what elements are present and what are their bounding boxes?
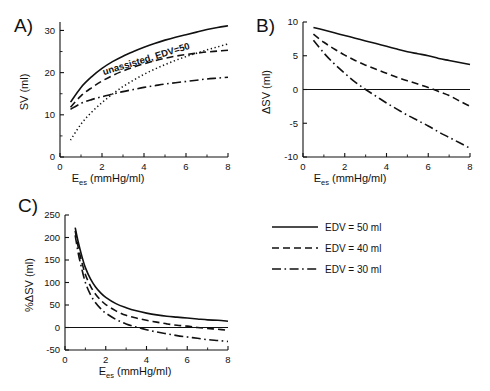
panel-a-ytick: 30 — [44, 25, 55, 36]
figure-root: A) 024680102030 SV (ml) Ees (mmHg/ml) un… — [0, 0, 490, 391]
panel-b-curves — [313, 27, 470, 148]
panel-a-xtick: 2 — [99, 161, 104, 172]
panel-c-ytick: 100 — [44, 277, 60, 288]
panel-c-curves — [75, 228, 228, 342]
panel-b-series-1 — [313, 34, 470, 106]
panel-a-xtick: 0 — [57, 161, 62, 172]
panel-b-xtick: 6 — [426, 161, 431, 172]
panel-a-xtick: 6 — [183, 161, 188, 172]
panel-c-x-axis-title: Ees (mmHg/ml) — [99, 365, 172, 380]
panel-a-xtick: 8 — [225, 161, 230, 172]
panel-a-ytick: 0 — [50, 151, 55, 162]
panel-c-ytick: 250 — [44, 209, 60, 220]
panel-a-axes — [60, 22, 228, 157]
panel-c-y-axis-title: %ΔSV (ml) — [23, 258, 35, 312]
panel-c-label: C) — [18, 195, 38, 216]
panel-a: A) 024680102030 SV (ml) Ees (mmHg/ml) un… — [14, 15, 231, 187]
panel-a-y-axis-title: SV (ml) — [18, 74, 30, 111]
panel-c-xtick: 2 — [103, 354, 108, 365]
panel-c-ytick: 50 — [49, 299, 60, 310]
panel-c-xtick: 0 — [62, 354, 67, 365]
panel-a-series-3 — [71, 77, 229, 109]
panel-a-xtick: 4 — [141, 161, 146, 172]
panel-b-y-axis-title: ΔSV (ml) — [260, 70, 272, 114]
legend-label-2: EDV = 30 ml — [325, 264, 381, 275]
panel-a-ytick: 10 — [44, 109, 55, 120]
panel-b: B) 02468-10-50510 ΔSV (ml) Ees (mmHg/ml) — [256, 15, 473, 187]
panel-c-xtick: 4 — [144, 354, 149, 365]
panel-a-x-axis-title: Ees (mmHg/ml) — [72, 172, 145, 187]
panel-b-xtick: 2 — [342, 161, 347, 172]
panel-b-xtick: 8 — [467, 161, 472, 172]
panel-c-ytick: 0 — [55, 322, 60, 333]
panel-c-ytick: -50 — [46, 344, 60, 355]
panel-c: C) 02468-50050100150200250 %ΔSV (ml) Ees… — [18, 195, 231, 380]
panel-b-label: B) — [256, 15, 275, 36]
panel-c-xtick: 6 — [185, 354, 190, 365]
panel-c-series-0 — [75, 228, 228, 322]
panel-c-series-1 — [75, 231, 228, 330]
panel-b-ytick: -5 — [290, 118, 298, 129]
panel-b-ytick: 0 — [293, 84, 298, 95]
legend: EDV = 50 mlEDV = 40 mlEDV = 30 ml — [272, 222, 381, 275]
panel-b-ytick: 10 — [287, 16, 298, 27]
panel-a-label: A) — [14, 15, 33, 36]
panel-c-xtick: 8 — [225, 354, 230, 365]
panel-c-tick-labels: 02468-50050100150200250 — [44, 209, 231, 365]
panel-b-xtick: 0 — [300, 161, 305, 172]
panel-b-ytick: -10 — [284, 151, 298, 162]
panel-c-ytick: 200 — [44, 232, 60, 243]
legend-label-0: EDV = 50 ml — [325, 222, 381, 233]
panel-b-xtick: 4 — [384, 161, 389, 172]
panel-a-series-0 — [71, 26, 229, 102]
panel-b-x-axis-title: Ees (mmHg/ml) — [314, 172, 387, 187]
panel-b-ytick: 5 — [293, 50, 298, 61]
panel-a-annotation: unassisted, EDV=50 — [101, 40, 191, 77]
panel-c-ytick: 150 — [44, 254, 60, 265]
panel-a-ytick: 20 — [44, 67, 55, 78]
legend-label-1: EDV = 40 ml — [325, 243, 381, 254]
panel-b-series-0 — [313, 27, 470, 64]
panel-a-curves — [71, 26, 229, 140]
panel-b-axes — [303, 22, 470, 157]
panel-c-series-2 — [75, 235, 228, 341]
